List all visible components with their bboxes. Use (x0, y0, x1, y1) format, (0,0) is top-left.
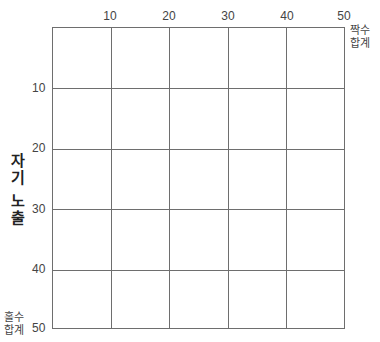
x-axis-end-label-line2: 합계 (350, 37, 370, 50)
y-axis-title-char: 출 (10, 209, 26, 226)
y-axis-title-char: 노 (10, 192, 26, 209)
x-axis-end-label-line1: 짝수 (350, 24, 370, 37)
y-axis-title-char: 기 (10, 169, 26, 186)
x-tick-10: 10 (103, 9, 116, 23)
grid-hline (53, 149, 344, 150)
y-tick-40: 40 (32, 262, 45, 276)
y-axis-end-label: 홀수 합계 (4, 311, 24, 337)
grid-hline (53, 88, 344, 89)
grid-vline (286, 28, 287, 328)
grid-vline (111, 28, 112, 328)
y-axis-title-char: 자 (10, 152, 26, 169)
y-axis-end-label-line2: 합계 (4, 324, 24, 337)
x-tick-30: 30 (221, 9, 234, 23)
y-tick-20: 20 (32, 141, 45, 155)
grid-vline (228, 28, 229, 328)
y-tick-10: 10 (32, 81, 45, 95)
y-axis-end-label-line1: 홀수 (4, 311, 24, 324)
x-tick-40: 40 (280, 9, 293, 23)
grid-vline (169, 28, 170, 328)
grid-hline (53, 270, 344, 271)
johari-grid (52, 27, 345, 329)
x-axis-end-label: 짝수 합계 (350, 24, 370, 50)
grid-hline (53, 209, 344, 210)
y-tick-50: 50 (32, 321, 45, 335)
x-tick-20: 20 (162, 9, 175, 23)
y-axis-title: 자 기 노 출 (10, 152, 26, 226)
x-tick-50: 50 (337, 9, 350, 23)
y-tick-30: 30 (32, 202, 45, 216)
